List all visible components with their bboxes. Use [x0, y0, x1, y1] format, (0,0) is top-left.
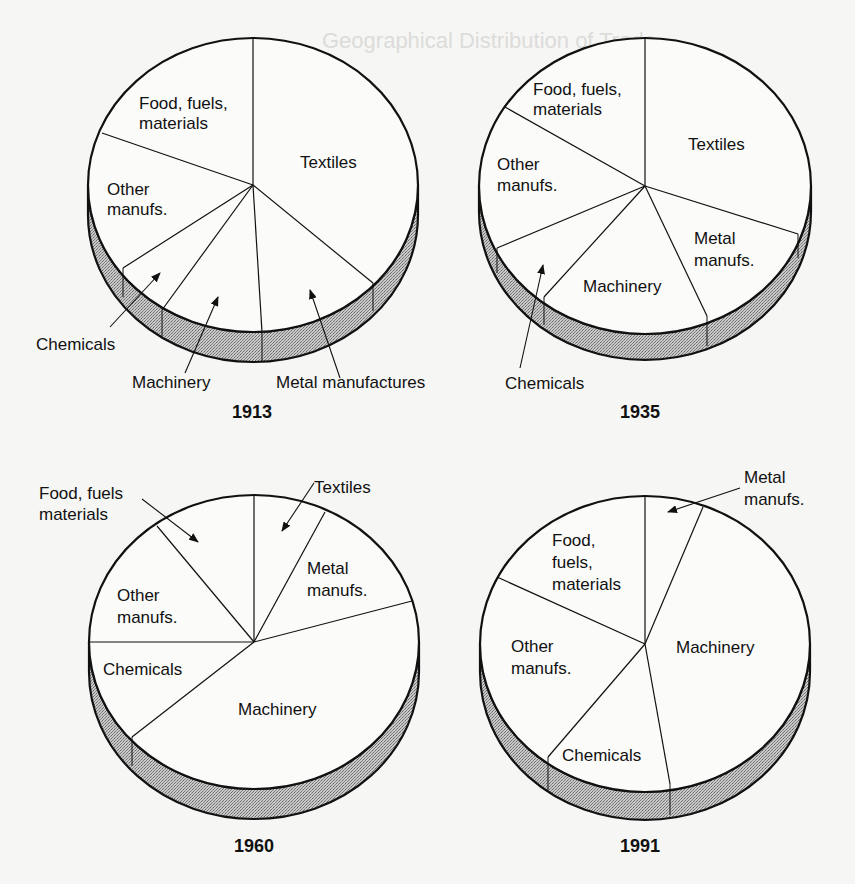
- year-label-1913: 1913: [232, 402, 272, 422]
- pie-1935: Food, fuels, materials Textiles Other ma…: [479, 38, 811, 422]
- label-machinery: Machinery: [583, 277, 662, 296]
- pie-1913: Food, fuels, materials Textiles Other ma…: [36, 38, 425, 422]
- pie-1960: Food, fuels materials Textiles Metal man…: [39, 478, 419, 856]
- label-textiles: Textiles: [300, 153, 357, 172]
- pie-1991: Metal manufs. Food, fuels, materials Oth…: [480, 468, 810, 856]
- label-machinery: Machinery: [132, 373, 211, 392]
- label-chemicals: Chemicals: [36, 335, 115, 354]
- label-machinery: Machinery: [676, 638, 755, 657]
- year-label-1991: 1991: [620, 836, 660, 856]
- label-textiles: Textiles: [688, 135, 745, 154]
- label-textiles: Textiles: [314, 478, 371, 497]
- pie-chart-figure: Food, fuels, materials Textiles Other ma…: [0, 0, 855, 884]
- label-chemicals: Chemicals: [505, 374, 584, 393]
- label-metal-manufactures: Metal manufactures: [276, 373, 425, 392]
- label-food-fuels-materials: Food, fuels materials: [39, 484, 128, 524]
- label-machinery: Machinery: [238, 700, 317, 719]
- label-chemicals: Chemicals: [562, 746, 641, 765]
- label-metal-manufs: Metal manufs.: [744, 468, 804, 509]
- label-chemicals: Chemicals: [103, 660, 182, 679]
- year-label-1935: 1935: [620, 402, 660, 422]
- year-label-1960: 1960: [234, 836, 274, 856]
